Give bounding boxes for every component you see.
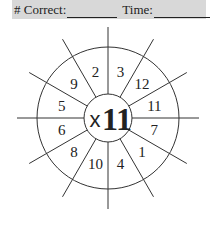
sector-number: 10 (88, 156, 103, 172)
sector-number: 8 (70, 144, 78, 160)
center-operator: x (90, 107, 101, 132)
sector-number: 7 (151, 122, 159, 138)
sector-number: 2 (92, 64, 100, 80)
center-number: 11 (102, 101, 132, 137)
sector-number: 6 (58, 122, 66, 138)
sector-number: 4 (117, 156, 125, 172)
sector-number: 9 (70, 76, 78, 92)
multiplication-wheel: x 11 312117141086592 (0, 0, 217, 229)
sector-number: 5 (58, 98, 66, 114)
sector-number: 12 (134, 76, 149, 92)
sector-number: 1 (138, 144, 146, 160)
spoke-line (120, 139, 154, 197)
sector-number: 3 (117, 64, 125, 80)
sector-number: 11 (147, 98, 161, 114)
